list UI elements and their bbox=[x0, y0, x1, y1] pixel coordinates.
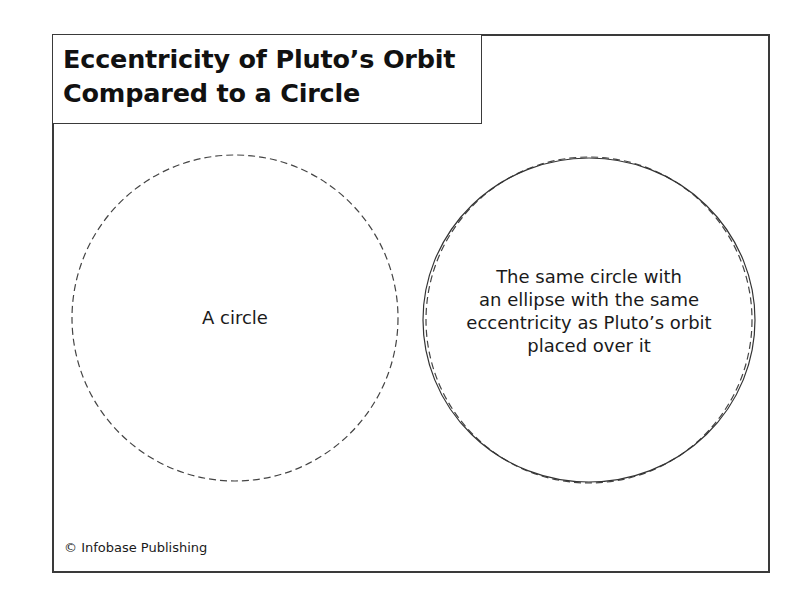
right-figure-label: The same circle with an ellipse with the… bbox=[449, 265, 729, 357]
copyright-credit: © Infobase Publishing bbox=[64, 540, 207, 555]
left-circle-label: A circle bbox=[155, 306, 315, 329]
title-line-1: Eccentricity of Pluto’s Orbit bbox=[63, 42, 455, 76]
title-box: Eccentricity of Pluto’s Orbit Compared t… bbox=[52, 34, 482, 124]
right-label-line-3: eccentricity as Pluto’s orbit bbox=[449, 311, 729, 334]
title-line-2: Compared to a Circle bbox=[63, 76, 455, 110]
right-label-line-1: The same circle with bbox=[449, 265, 729, 288]
right-label-line-4: placed over it bbox=[449, 334, 729, 357]
figure-title: Eccentricity of Pluto’s Orbit Compared t… bbox=[63, 42, 455, 110]
right-label-line-2: an ellipse with the same bbox=[449, 288, 729, 311]
